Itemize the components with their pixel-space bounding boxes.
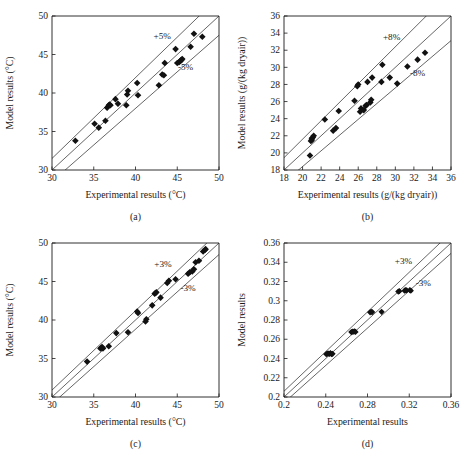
data-point xyxy=(369,74,376,81)
x-tick-label: 0.36 xyxy=(443,400,460,410)
data-point xyxy=(125,329,132,336)
x-tick-label: 0.28 xyxy=(359,400,376,410)
y-tick-label: 26 xyxy=(271,97,281,107)
chart-panel-b: 1820222426283032343618202224262830323436… xyxy=(232,0,463,226)
y-tick-label: 22 xyxy=(271,131,281,141)
x-tick-label: 22 xyxy=(316,173,326,183)
x-tick-label: 40 xyxy=(131,400,141,410)
scatter-plot-a: 30354045503035404550+5%-5%Experimental r… xyxy=(0,0,231,226)
x-tick-label: 50 xyxy=(214,400,224,410)
scatter-plot-c: 30354045503035404550+3%-3%Experimental r… xyxy=(0,227,231,453)
y-tick-label: 45 xyxy=(39,50,49,60)
parity-line xyxy=(284,16,451,170)
y-tick-label: 30 xyxy=(39,392,49,402)
y-tick-label: 50 xyxy=(39,238,49,248)
x-tick-label: 40 xyxy=(131,173,141,183)
figure-panel-grid: 30354045503035404550+5%-5%Experimental r… xyxy=(0,0,463,453)
x-tick-label: 45 xyxy=(173,173,183,183)
y-tick-label: 0.28 xyxy=(263,315,280,325)
x-tick-label: 35 xyxy=(89,173,99,183)
chart-panel-c: 30354045503035404550+3%-3%Experimental r… xyxy=(0,227,231,453)
y-tick-label: 35 xyxy=(39,354,49,364)
data-point xyxy=(414,56,421,63)
y-tick-label: 0.2 xyxy=(268,392,280,402)
y-axis-title: Model results (°C) xyxy=(4,56,16,129)
data-point xyxy=(307,152,314,159)
data-point xyxy=(156,82,163,89)
data-point xyxy=(335,108,342,115)
data-point xyxy=(91,121,98,128)
y-tick-label: 0.34 xyxy=(263,257,280,267)
y-axis-title: Model results xyxy=(236,293,247,347)
error-band-label: -5% xyxy=(178,62,194,72)
x-tick-label: 24 xyxy=(335,173,345,183)
data-point xyxy=(134,80,141,87)
x-tick-label: 35 xyxy=(89,400,99,410)
y-tick-label: 0.24 xyxy=(263,354,280,364)
y-tick-label: 30 xyxy=(271,63,281,73)
y-tick-label: 20 xyxy=(271,148,281,158)
x-tick-label: 18 xyxy=(279,173,289,183)
chart-panel-d: 0.20.240.280.320.360.20.220.240.260.280.… xyxy=(232,227,463,453)
error-band-label: +5% xyxy=(154,31,172,41)
x-tick-label: 32 xyxy=(409,173,419,183)
data-point xyxy=(123,102,130,109)
y-tick-label: 45 xyxy=(39,277,49,287)
data-point xyxy=(95,124,102,131)
error-band-label: +3% xyxy=(395,256,413,266)
x-tick-label: 45 xyxy=(173,400,183,410)
y-tick-label: 0.22 xyxy=(263,373,280,383)
y-tick-label: 30 xyxy=(39,165,49,175)
y-tick-label: 34 xyxy=(271,28,281,38)
data-point xyxy=(422,49,429,56)
data-point xyxy=(191,30,198,37)
data-point xyxy=(161,60,168,67)
error-band-line-minus xyxy=(52,255,219,404)
plot-area-a xyxy=(52,0,219,182)
chart-panel-a: 30354045503035404550+5%-5%Experimental r… xyxy=(0,0,231,226)
data-point xyxy=(105,343,112,350)
y-tick-label: 18 xyxy=(271,165,281,175)
data-point xyxy=(199,33,206,40)
x-axis-title: Experimental results xyxy=(327,416,408,427)
parity-line xyxy=(284,243,451,397)
data-point xyxy=(364,79,371,86)
error-band-line-plus xyxy=(52,0,219,158)
y-tick-label: 35 xyxy=(39,127,49,137)
panel-caption: (d) xyxy=(362,438,373,450)
y-axis-title: Model results (g/(kg dryair)) xyxy=(236,37,248,149)
x-tick-label: 28 xyxy=(372,173,382,183)
y-tick-label: 36 xyxy=(271,11,281,21)
error-band-line-minus xyxy=(284,253,451,402)
error-band-label: -8% xyxy=(410,68,426,78)
data-point xyxy=(386,74,393,81)
y-tick-label: 28 xyxy=(271,80,281,90)
y-tick-label: 32 xyxy=(271,45,281,55)
x-tick-label: 30 xyxy=(47,400,57,410)
data-point xyxy=(172,276,179,283)
parity-line xyxy=(52,16,219,170)
data-point xyxy=(394,80,401,87)
scatter-plot-d: 0.20.240.280.320.360.20.220.240.260.280.… xyxy=(232,227,463,453)
data-point xyxy=(149,302,156,309)
y-axis-title: Model results (°C) xyxy=(4,283,16,356)
plot-area-b xyxy=(284,0,451,182)
data-point xyxy=(172,46,179,53)
y-tick-label: 50 xyxy=(39,11,49,21)
y-tick-label: 40 xyxy=(39,88,49,98)
error-band-label: -3% xyxy=(416,278,432,288)
error-band-label: +3% xyxy=(154,259,172,269)
x-tick-label: 36 xyxy=(446,173,456,183)
error-band-line-minus xyxy=(52,35,219,181)
error-band-label: +8% xyxy=(383,32,401,42)
error-band-line-minus xyxy=(284,41,451,183)
x-tick-label: 50 xyxy=(214,173,224,183)
x-tick-label: 30 xyxy=(47,173,57,183)
x-tick-label: 0.24 xyxy=(317,400,334,410)
panel-caption: (c) xyxy=(130,438,141,450)
x-tick-label: 26 xyxy=(353,173,363,183)
scatter-plot-b: 1820222426283032343618202224262830323436… xyxy=(232,0,463,226)
x-tick-label: 34 xyxy=(428,173,438,183)
data-point xyxy=(322,116,329,123)
x-axis-title: Experimental results (g/(kg dryair)) xyxy=(298,189,438,201)
